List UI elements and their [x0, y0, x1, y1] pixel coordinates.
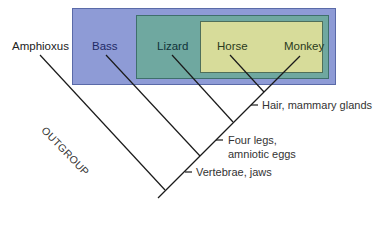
lizard-branch — [172, 55, 233, 122]
trait-hair-mammary: Hair, mammary glands — [262, 99, 372, 112]
taxon-amphioxus: Amphioxus — [12, 40, 69, 53]
taxon-horse: Horse — [217, 40, 248, 53]
taxon-monkey: Monkey — [284, 40, 324, 53]
trait-vertebrae-jaws: Vertebrae, jaws — [196, 166, 272, 179]
trait-four-legs-line2: amniotic eggs — [228, 148, 296, 161]
taxon-bass: Bass — [92, 40, 118, 53]
amphioxus-branch — [40, 55, 165, 190]
taxon-lizard: Lizard — [157, 40, 188, 53]
trait-four-legs-line1: Four legs, — [228, 134, 277, 147]
horse-branch — [230, 55, 264, 92]
